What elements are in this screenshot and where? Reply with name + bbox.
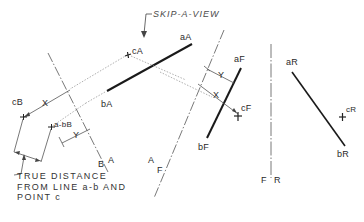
fold-ba-label-b: B bbox=[98, 160, 104, 169]
fold-line-af bbox=[154, 30, 224, 198]
true-distance-extension-left bbox=[14, 119, 23, 152]
label-cr: cR bbox=[346, 106, 356, 114]
note-line-2: FROM LINE a-b AND bbox=[17, 182, 126, 193]
point-cr-marker bbox=[339, 113, 346, 121]
note-line-1: TRUE DISTANCE bbox=[17, 171, 126, 182]
dimension-x-label-b: X bbox=[42, 99, 48, 108]
point-cf-marker bbox=[234, 112, 242, 121]
dimension-x-label-f: X bbox=[213, 91, 219, 100]
label-br: bR bbox=[337, 150, 349, 159]
true-distance-note: TRUE DISTANCE FROM LINE a-b AND POINT c bbox=[17, 171, 126, 203]
label-ba: bA bbox=[101, 100, 113, 109]
label-aa: aA bbox=[180, 33, 192, 42]
dimension-y-label-b: Y bbox=[73, 131, 79, 140]
line-ab-view-a bbox=[107, 44, 192, 91]
true-distance-extension-right bbox=[41, 129, 51, 162]
label-af: aF bbox=[234, 55, 245, 64]
projection-ca-to-af bbox=[131, 56, 186, 80]
fold-af-label-a: A bbox=[148, 156, 154, 165]
label-cb: cB bbox=[12, 98, 23, 107]
label-ab-b: a-bB bbox=[54, 121, 72, 129]
arrowhead bbox=[24, 112, 30, 117]
note-line-3: POINT c bbox=[17, 192, 126, 203]
line-ab-view-r bbox=[292, 72, 345, 146]
skip-a-view-label: SKIP-A-VIEW bbox=[153, 10, 220, 19]
label-cf: cF bbox=[241, 104, 252, 113]
descriptive-geometry-drawing: SKIP-A-VIEW cA aA bA cB a-bB X Y B A A F… bbox=[0, 0, 364, 222]
label-bf: bF bbox=[198, 143, 209, 152]
dimension-y-label-f: Y bbox=[218, 71, 224, 80]
point-ca-marker bbox=[125, 52, 131, 58]
fold-af-label-f: F bbox=[157, 166, 163, 175]
point-cb-marker bbox=[20, 114, 27, 120]
fold-ba-label-a: A bbox=[108, 156, 114, 165]
label-ar: aR bbox=[286, 58, 298, 67]
arrowhead bbox=[232, 108, 237, 113]
fold-fr-label-f: F bbox=[261, 176, 267, 185]
leader-arrowhead bbox=[141, 31, 147, 38]
fold-fr-label-r: R bbox=[274, 176, 281, 185]
label-ca: cA bbox=[132, 47, 143, 56]
fold-line-ba bbox=[48, 53, 108, 172]
projection-line-to-af bbox=[160, 72, 212, 97]
